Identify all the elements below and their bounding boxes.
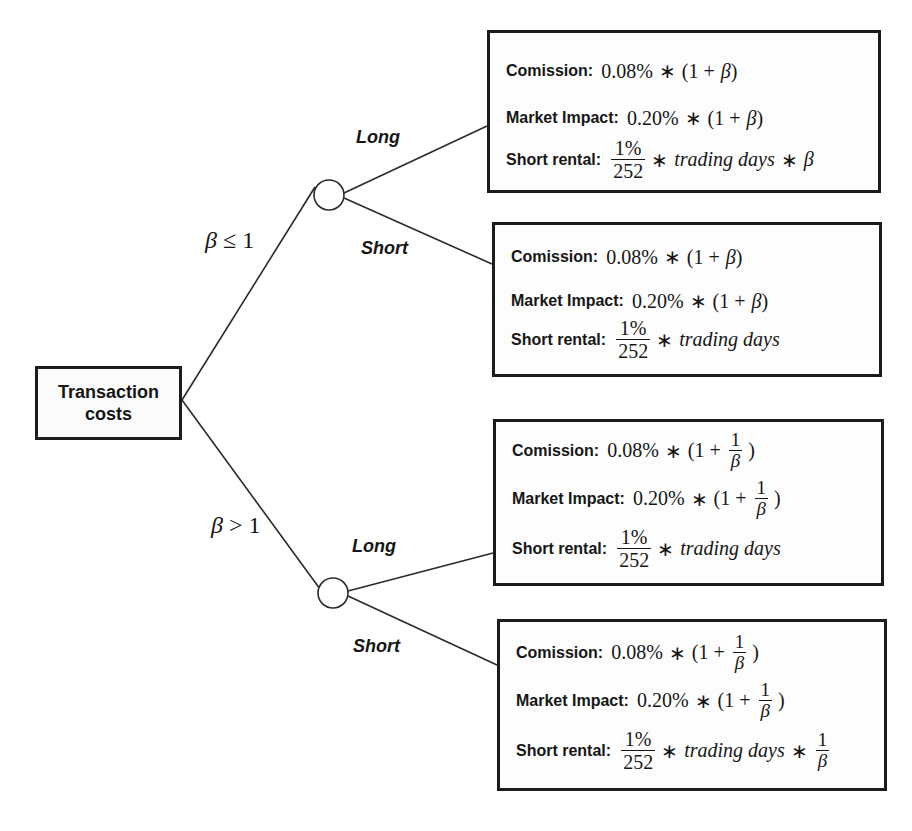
commission-row: Comission: 0.08%∗(1 +β)	[511, 245, 742, 269]
market-impact-row: Market Impact: 0.20%∗(1 +β)	[506, 106, 763, 130]
short-rental-row: Short rental: 1%252 ∗trading days∗ 1β	[516, 728, 835, 773]
branch-label-lower-short: Short	[353, 636, 400, 657]
edge-root-to-lower	[182, 400, 320, 589]
root-label-line1: Transaction	[58, 381, 159, 403]
branch-label-upper-short: Short	[361, 238, 408, 259]
market-impact-row: Market Impact: 0.20%∗(1 + 1β)	[516, 680, 785, 721]
branch-label-lower-long: Long	[352, 536, 396, 557]
commission-row: Comission: 0.08%∗(1 +β)	[506, 59, 737, 83]
short-rental-row: Short rental: 1%252 ∗trading days∗β	[506, 137, 814, 182]
edge-root-to-upper	[182, 187, 315, 400]
edge-lower-long	[348, 553, 493, 591]
commission-row: Comission: 0.08%∗(1 + 1β)	[512, 430, 755, 471]
condition-beta-le-1: β ≤ 1	[205, 227, 254, 254]
decision-node-lower	[318, 578, 348, 608]
decision-node-upper	[314, 180, 344, 210]
commission-row: Comission: 0.08%∗(1 + 1β)	[516, 632, 759, 673]
root-label-line2: costs	[85, 403, 132, 425]
leaf-box-beta-le-1-short: Comission: 0.08%∗(1 +β) Market Impact: 0…	[492, 222, 882, 377]
leaf-box-beta-gt-1-long: Comission: 0.08%∗(1 + 1β) Market Impact:…	[493, 419, 884, 586]
market-impact-row: Market Impact: 0.20%∗(1 +β)	[511, 289, 768, 313]
branch-label-upper-long: Long	[356, 127, 400, 148]
root-node-transaction-costs: Transaction costs	[35, 366, 182, 440]
leaf-box-beta-gt-1-short: Comission: 0.08%∗(1 + 1β) Market Impact:…	[497, 619, 887, 791]
market-impact-row: Market Impact: 0.20%∗(1 + 1β)	[512, 478, 781, 519]
short-rental-row: Short rental: 1%252 ∗trading days	[511, 317, 780, 362]
short-rental-row: Short rental: 1%252 ∗trading days	[512, 526, 781, 571]
leaf-box-beta-le-1-long: Comission: 0.08%∗(1 +β) Market Impact: 0…	[487, 30, 881, 193]
condition-beta-gt-1: β > 1	[211, 512, 261, 539]
